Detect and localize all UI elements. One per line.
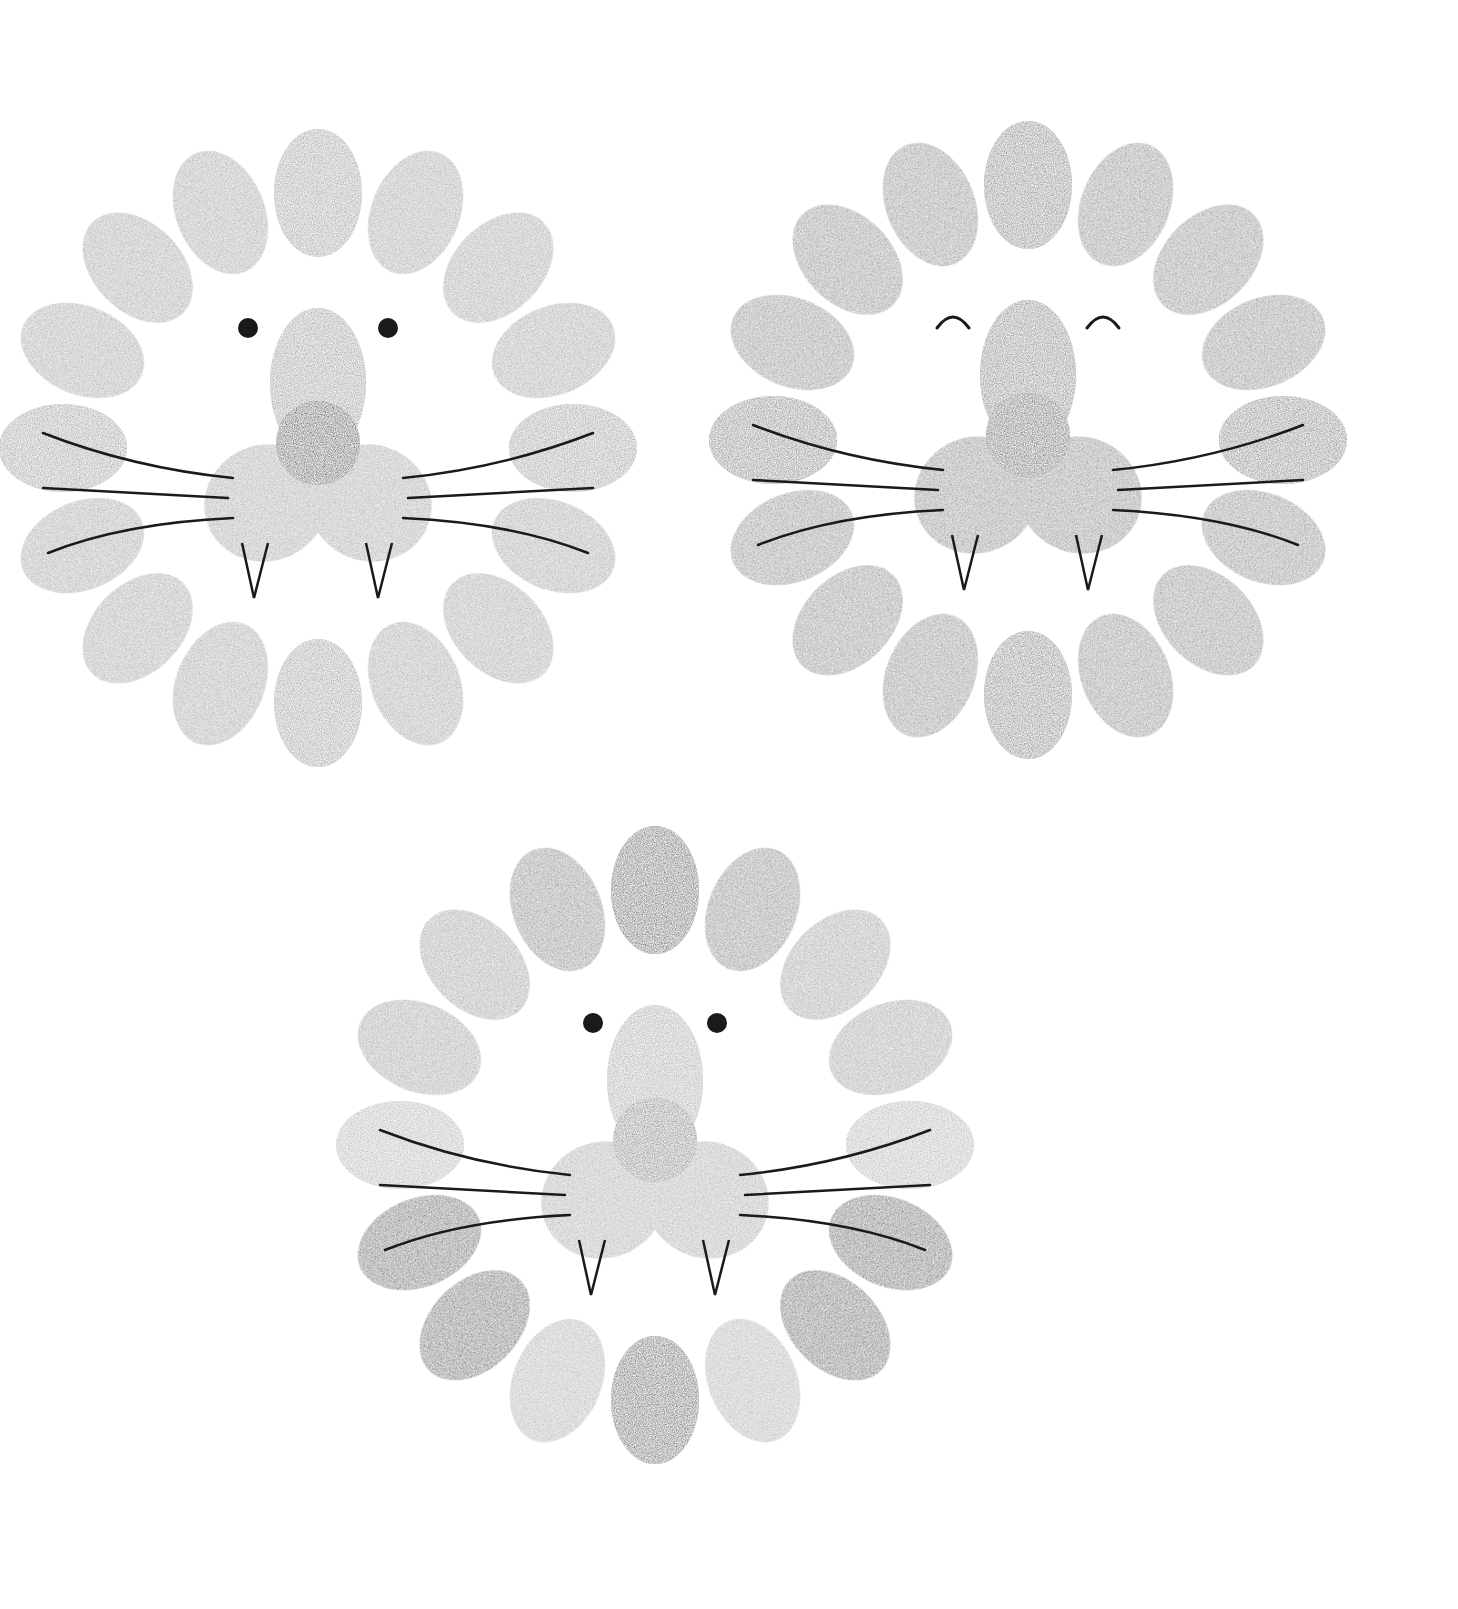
mane-print bbox=[509, 404, 637, 492]
whisker bbox=[43, 488, 228, 498]
mane-print bbox=[984, 121, 1072, 249]
mane-print bbox=[274, 639, 362, 767]
nose-tip bbox=[276, 401, 360, 485]
eye-dot-icon bbox=[378, 318, 398, 338]
lion-bottom bbox=[336, 826, 974, 1464]
nose-tip bbox=[613, 1098, 697, 1182]
mane-print bbox=[274, 129, 362, 257]
closed-eye-arc-icon bbox=[1087, 317, 1119, 328]
whisker bbox=[1118, 480, 1303, 490]
mane-print bbox=[984, 631, 1072, 759]
mane-print bbox=[709, 396, 837, 484]
whisker bbox=[753, 480, 938, 490]
mane-print bbox=[611, 826, 699, 954]
nose-tip bbox=[986, 393, 1070, 477]
closed-eye-arc-icon bbox=[937, 317, 969, 328]
eye-dot-icon bbox=[707, 1013, 727, 1033]
fingerprint-lions-illustration bbox=[0, 0, 1458, 1609]
whisker bbox=[380, 1185, 565, 1195]
mane-print bbox=[846, 1101, 974, 1189]
whisker bbox=[408, 488, 593, 498]
lion-top-right bbox=[709, 121, 1347, 759]
lion-top-left bbox=[0, 129, 637, 767]
mane-print bbox=[0, 404, 127, 492]
eye-dot-icon bbox=[583, 1013, 603, 1033]
eye-dot-icon bbox=[238, 318, 258, 338]
mane-print bbox=[336, 1101, 464, 1189]
mane-print bbox=[1219, 396, 1347, 484]
whisker bbox=[745, 1185, 930, 1195]
mane-print bbox=[611, 1336, 699, 1464]
